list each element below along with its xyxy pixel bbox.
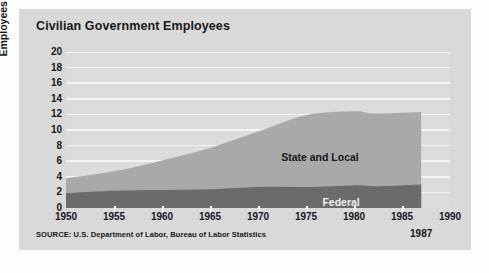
x-axis-tick-mark xyxy=(258,206,260,211)
series-label-state-and-local: State and Local xyxy=(281,151,359,163)
source-note: SOURCE: U.S. Department of Labor, Bureau… xyxy=(36,230,266,239)
x-axis-tick-label: 1960 xyxy=(151,211,173,222)
y-axis-tick-label: 10 xyxy=(22,125,62,135)
stacked-area-series xyxy=(66,52,450,208)
x-axis-tick-mark xyxy=(114,206,116,211)
plot-area: State and Local Federal xyxy=(66,52,450,208)
data-end-year-label: 1987 xyxy=(410,228,432,239)
x-axis-tick-mark xyxy=(402,206,404,211)
x-axis-tick-label: 1955 xyxy=(103,211,125,222)
y-axis-tick-labels: 02468101214161820 xyxy=(18,52,62,208)
x-axis-tick-label: 1965 xyxy=(199,211,221,222)
y-axis-tick-label: 20 xyxy=(22,47,62,57)
x-axis-tick-labels: 195019551960196519701975198019851990 xyxy=(66,211,486,227)
y-axis-tick-label: 14 xyxy=(22,94,62,104)
y-axis-tick-label: 12 xyxy=(22,109,62,119)
x-axis-tick-label: 1950 xyxy=(55,211,77,222)
page-title: Civilian Government Employees xyxy=(36,19,230,33)
chart-figure: Civilian Government Employees 0246810121… xyxy=(0,0,489,273)
y-axis-tick-label: 4 xyxy=(22,172,62,182)
x-axis-tick-mark xyxy=(306,206,308,211)
y-axis-title: Employees (millions) xyxy=(0,0,9,84)
x-axis-tick-label: 1975 xyxy=(295,211,317,222)
x-axis-tick-label: 1980 xyxy=(343,211,365,222)
y-axis-tick-label: 16 xyxy=(22,78,62,88)
x-axis-tick-mark xyxy=(354,206,356,211)
y-axis-tick-label: 2 xyxy=(22,187,62,197)
x-axis-tick-label: 1990 xyxy=(439,211,461,222)
x-axis-tick-label: 1970 xyxy=(247,211,269,222)
x-axis-tick-mark xyxy=(162,206,164,211)
y-axis-tick-label: 6 xyxy=(22,156,62,166)
x-axis-tick-label: 1985 xyxy=(391,211,413,222)
x-axis-tick-mark xyxy=(210,206,212,211)
y-axis-tick-label: 8 xyxy=(22,141,62,151)
y-axis-tick-label: 18 xyxy=(22,63,62,73)
